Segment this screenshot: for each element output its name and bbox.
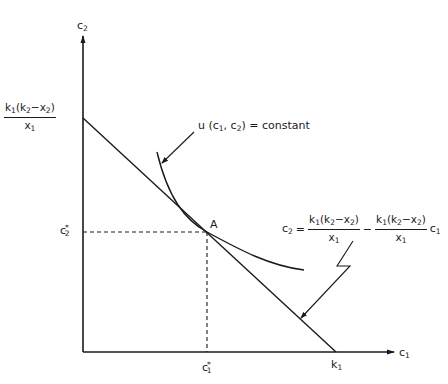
budget-equation: c2 = k1(k2−x2) x1 − k1(k2−x2) x1 c1: [282, 214, 441, 244]
budget-eq-lhs: c2: [282, 222, 293, 236]
utility-label-leader: [162, 132, 194, 163]
optimum-point-label: A: [210, 219, 218, 230]
budget-equation-leader: [301, 241, 353, 318]
x-intercept-label: k1: [331, 359, 342, 372]
y-intercept-numerator: k1(k2−x2): [4, 102, 56, 118]
c2-star-label: c*2: [60, 224, 70, 238]
budget-eq-minus: −: [360, 223, 375, 236]
budget-eq-c1: c1: [430, 222, 441, 236]
budget-eq-equals: =: [293, 223, 308, 236]
budget-eq-slope-fraction: k1(k2−x2) x1: [375, 214, 427, 244]
y-axis-label: c2: [77, 20, 88, 33]
diagram-canvas: [0, 0, 448, 384]
y-intercept-label: k1(k2−x2) x1: [4, 102, 56, 132]
x-axis-label: c1: [399, 347, 410, 360]
indifference-curve-label: u (c1, c2) = constant: [198, 120, 310, 133]
indifference-curve: [157, 152, 304, 270]
y-intercept-denominator: x1: [24, 118, 35, 133]
budget-eq-intercept-fraction: k1(k2−x2) x1: [308, 214, 360, 244]
c1-star-label: c*1: [202, 361, 212, 375]
